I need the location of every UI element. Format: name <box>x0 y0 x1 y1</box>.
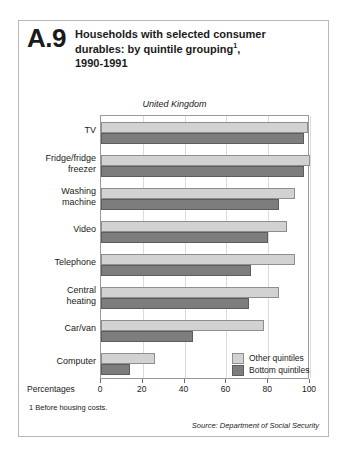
bar-group <box>101 320 308 342</box>
bar <box>101 298 249 309</box>
bar-group <box>101 254 308 276</box>
category-label-line: Telephone <box>16 257 96 268</box>
plot-area <box>100 115 309 379</box>
bar <box>101 199 279 210</box>
gridline <box>310 116 311 378</box>
axis-tick-label: 60 <box>221 384 230 394</box>
bar-group <box>101 287 308 309</box>
category-label-line: Computer <box>16 356 96 367</box>
figure-title-line3: 1990-1991 <box>75 57 128 69</box>
category-label-line: Washing <box>16 186 96 197</box>
legend-label-bottom-quintiles: Bottom quintiles <box>249 365 309 375</box>
bar <box>101 364 130 375</box>
category-label-line: Car/van <box>16 323 96 334</box>
bar <box>101 188 295 199</box>
axis-tick-label: 40 <box>179 384 188 394</box>
axis-tick <box>184 379 185 383</box>
bar <box>101 320 264 331</box>
legend-swatch-bottom-quintiles <box>232 365 244 376</box>
category-label: Car/van <box>16 323 96 334</box>
category-label: Washingmachine <box>16 186 96 207</box>
figure-title-line1: Households with selected consumer <box>75 28 266 40</box>
legend-item-other-quintiles: Other quintiles <box>232 352 309 364</box>
axis-tick <box>225 379 226 383</box>
category-label: TV <box>16 125 96 136</box>
category-label: Computer <box>16 356 96 367</box>
legend-label-other-quintiles: Other quintiles <box>249 353 304 363</box>
category-label-line: Fridge/fridge <box>16 153 96 164</box>
legend-swatch-other-quintiles <box>232 353 244 364</box>
axis-tick <box>142 379 143 383</box>
axis-tick-label: 100 <box>302 384 316 394</box>
axis-tick-label: 0 <box>98 384 103 394</box>
source-note: Source: Department of Social Security <box>192 421 319 430</box>
category-label-line: machine <box>16 197 96 208</box>
bar <box>101 232 268 243</box>
axis-tick <box>100 379 101 383</box>
figure-title-line2-tail: , <box>237 43 240 55</box>
bar <box>101 287 279 298</box>
figure-header: A.9 Households with selected consumer du… <box>19 21 330 93</box>
x-axis: 020406080100 <box>100 379 309 401</box>
bar <box>101 221 287 232</box>
plot-wrapper: TVFridge/fridgefreezerWashingmachineVide… <box>19 115 330 395</box>
category-label-line: TV <box>16 125 96 136</box>
bar <box>101 166 304 177</box>
legend-item-bottom-quintiles: Bottom quintiles <box>232 364 309 376</box>
category-label-line: heating <box>16 296 96 307</box>
category-label: Fridge/fridgefreezer <box>16 153 96 174</box>
category-label-line: Central <box>16 285 96 296</box>
axis-tick <box>267 379 268 383</box>
bar <box>101 265 251 276</box>
footnote: 1 Before housing costs. <box>29 403 107 412</box>
figure-container: A.9 Households with selected consumer du… <box>18 20 329 437</box>
bar-group <box>101 122 308 144</box>
x-axis-title: Percentages <box>27 384 75 394</box>
legend: Other quintiles Bottom quintiles <box>232 352 309 376</box>
category-label: Centralheating <box>16 285 96 306</box>
bar-group <box>101 188 308 210</box>
bar-group <box>101 155 308 177</box>
bar <box>101 254 295 265</box>
bar-group <box>101 221 308 243</box>
bar <box>101 155 310 166</box>
bar <box>101 133 304 144</box>
category-label: Video <box>16 224 96 235</box>
bar <box>101 331 193 342</box>
axis-tick-label: 80 <box>262 384 271 394</box>
bar <box>101 122 308 133</box>
figure-title-line2: durables: by quintile grouping <box>75 43 233 55</box>
figure-number: A.9 <box>27 25 66 51</box>
region-subtitle: United Kingdom <box>19 99 330 109</box>
category-label-line: freezer <box>16 164 96 175</box>
figure-title: Households with selected consumer durabl… <box>75 27 323 71</box>
category-label: Telephone <box>16 257 96 268</box>
axis-tick-label: 20 <box>137 384 146 394</box>
bar <box>101 353 155 364</box>
axis-tick <box>309 379 310 383</box>
category-label-line: Video <box>16 224 96 235</box>
